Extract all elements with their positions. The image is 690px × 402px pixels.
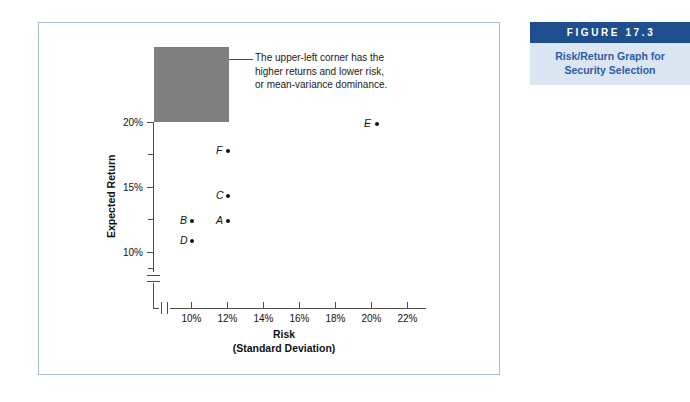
x-tick-label-10: 10%	[177, 313, 206, 324]
y-minor-tick-17-5	[148, 154, 154, 155]
y-axis-line	[153, 122, 154, 272]
annotation-line-3: or mean-variance dominance.	[255, 78, 420, 92]
data-label-B: B	[180, 214, 187, 226]
x-axis-title-line-2: (Standard Deviation)	[217, 342, 351, 354]
x-axis-break-mark-right	[167, 302, 168, 314]
x-tick-label-22: 22%	[393, 313, 422, 324]
figure-number-header: FIGURE 17.3	[530, 22, 690, 43]
x-tick-label-14: 14%	[249, 313, 278, 324]
figure-title-body: Risk/Return Graph for Security Selection	[530, 43, 690, 85]
y-axis-break-mark-upper	[147, 275, 160, 276]
x-axis-break-mark-left	[161, 302, 162, 314]
x-tick-22	[407, 302, 408, 308]
figure-title-line-2: Security Selection	[538, 63, 682, 77]
x-axis-line	[153, 308, 159, 309]
figure-caption-block: FIGURE 17.3 Risk/Return Graph for Securi…	[530, 22, 690, 85]
x-tick-20	[371, 302, 372, 308]
data-label-A: A	[216, 214, 223, 226]
y-axis-line-lower	[153, 283, 154, 308]
data-label-E: E	[364, 117, 371, 129]
figure-frame: The upper-left corner has the higher ret…	[38, 22, 500, 375]
annotation-leader-line	[229, 59, 253, 60]
dominance-region-shading	[154, 47, 229, 122]
dominance-annotation: The upper-left corner has the higher ret…	[255, 51, 420, 92]
data-point-E	[375, 122, 379, 126]
y-minor-tick-8-5	[148, 268, 154, 269]
data-point-C	[226, 194, 230, 198]
x-tick-label-16: 16%	[285, 313, 314, 324]
x-tick-label-20: 20%	[357, 313, 386, 324]
y-tick-10	[147, 252, 154, 253]
data-point-A	[226, 219, 230, 223]
y-tick-label-20: 20%	[113, 117, 143, 128]
data-point-D	[190, 239, 194, 243]
data-point-B	[190, 219, 194, 223]
y-tick-label-10: 10%	[113, 247, 143, 258]
y-tick-20	[147, 122, 154, 123]
data-point-F	[226, 149, 230, 153]
data-label-D: D	[180, 234, 188, 246]
x-axis-line-main	[170, 308, 426, 309]
x-tick-label-18: 18%	[321, 313, 350, 324]
x-tick-10	[191, 302, 192, 308]
figure-title-line-1: Risk/Return Graph for	[538, 49, 682, 63]
annotation-line-2: higher returns and lower risk,	[255, 65, 420, 79]
y-axis-title: Expected Return	[105, 155, 117, 238]
data-label-C: C	[216, 189, 224, 201]
y-minor-tick-12-5	[148, 219, 154, 220]
x-tick-14	[263, 302, 264, 308]
x-tick-16	[299, 302, 300, 308]
y-axis-break-mark-lower	[147, 281, 160, 282]
y-tick-15	[147, 187, 154, 188]
x-tick-12	[227, 302, 228, 308]
annotation-line-1: The upper-left corner has the	[255, 51, 420, 65]
y-tick-label-15: 15%	[113, 182, 143, 193]
x-tick-label-12: 12%	[213, 313, 242, 324]
x-axis-title-line-1: Risk	[229, 328, 339, 340]
x-tick-18	[335, 302, 336, 308]
risk-return-scatter-plot: The upper-left corner has the higher ret…	[39, 23, 501, 376]
data-label-F: F	[216, 144, 222, 156]
